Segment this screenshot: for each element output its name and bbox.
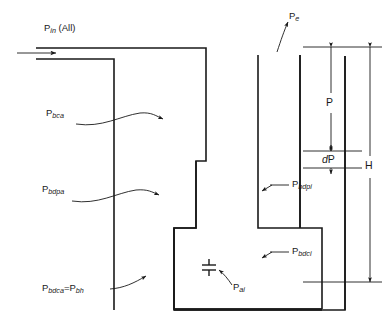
leader-ai xyxy=(219,270,232,285)
label-p-bdpa-sub: bdpa xyxy=(48,187,64,196)
duct-pressure-diagram: Pin (All) Pe Pbca Pbdpa Pbdca=Pbh Pai Pb… xyxy=(0,0,390,313)
label-p-bdpi: Pbdpi xyxy=(292,179,312,189)
label-p-bdca-sub: bdca xyxy=(48,286,64,295)
leader-bdca xyxy=(110,276,146,289)
label-p-e-sub: e xyxy=(295,14,299,23)
label-p-in: Pin (All) xyxy=(44,23,75,33)
leader-bdpi xyxy=(262,185,289,191)
label-p-bdca-mid: =P xyxy=(64,282,76,293)
label-p-bca: Pbca xyxy=(46,108,64,118)
leader-bca xyxy=(76,113,163,125)
label-p-bdpi-sub: bdpi xyxy=(298,182,312,191)
orifice-symbol xyxy=(202,259,216,276)
label-dimension-dP-roman: P xyxy=(328,153,335,165)
label-p-bdpa: Pbdpa xyxy=(42,184,64,194)
label-p-bca-sub: bca xyxy=(52,111,64,120)
label-p-in-suffix: (All) xyxy=(56,22,76,33)
label-p-ai-sub: ai xyxy=(239,285,245,294)
label-p-bdci-sub: bdci xyxy=(298,249,311,258)
label-dimension-H: H xyxy=(365,160,373,171)
label-dimension-P: P xyxy=(326,97,333,108)
label-p-bdci: Pbdci xyxy=(292,246,312,256)
label-dimension-dP: dP xyxy=(322,154,335,165)
label-dimension-P-text: P xyxy=(326,96,333,108)
label-p-ai: Pai xyxy=(233,282,245,292)
label-p-bdca-bh: Pbdca=Pbh xyxy=(42,283,84,293)
flue-inner-wall xyxy=(258,55,300,228)
exit-flow-arrow xyxy=(277,22,288,52)
label-p-in-sub: in xyxy=(50,26,56,35)
label-p-e: Pe xyxy=(289,11,299,21)
label-p-bh-sub: bh xyxy=(76,286,84,295)
label-dimension-H-text: H xyxy=(365,159,373,171)
leader-bdci xyxy=(262,252,289,258)
leader-bdpa xyxy=(72,190,159,202)
